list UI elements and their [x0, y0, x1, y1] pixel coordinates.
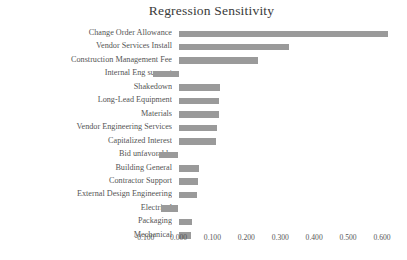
category-label: Packaging — [0, 215, 172, 227]
x-tick-label: 0.200 — [238, 232, 255, 244]
category-label: External Design Engineering — [0, 188, 172, 200]
bar — [179, 178, 199, 185]
chart-title: Regression Sensitivity — [0, 3, 407, 19]
category-label: Change Order Allowance — [0, 27, 172, 39]
bar — [179, 125, 218, 132]
x-tick-label: 0.600 — [373, 232, 390, 244]
chart-bar-row: Shakedown — [0, 82, 407, 94]
category-label: Shakedown — [0, 81, 172, 93]
chart-bar-row: Long-Lead Equipment — [0, 95, 407, 107]
x-tick-label: 0.400 — [306, 232, 323, 244]
chart-bar-row: Change Order Allowance — [0, 28, 407, 40]
x-axis: -0.1000.0000.1000.2000.3000.4000.5000.60… — [0, 232, 407, 246]
chart-bar-row: Materials — [0, 109, 407, 121]
x-tick-label: 0.500 — [340, 232, 357, 244]
chart-bar-row: External Design Engineering — [0, 189, 407, 201]
x-tick-label: -0.100 — [135, 232, 155, 244]
bar — [179, 219, 193, 226]
chart-bar-row: Vendor Services Install — [0, 41, 407, 53]
category-label: Materials — [0, 108, 172, 120]
category-label: Building General — [0, 162, 172, 174]
category-label: Long-Lead Equipment — [0, 94, 172, 106]
category-label: Capitalized Interest — [0, 135, 172, 147]
category-label: Bid unfavorable — [0, 148, 172, 160]
x-tick-label: 0.100 — [204, 232, 221, 244]
bar — [179, 44, 290, 51]
bar — [159, 152, 178, 159]
bar — [179, 84, 220, 91]
category-label: Vendor Engineering Services — [0, 121, 172, 133]
x-tick-label: 0.300 — [272, 232, 289, 244]
regression-sensitivity-chart: Regression Sensitivity Change Order Allo… — [0, 0, 407, 260]
chart-bar-row: Vendor Engineering Services — [0, 122, 407, 134]
chart-bar-row: Packaging — [0, 216, 407, 228]
bar — [179, 57, 258, 64]
bar — [179, 165, 199, 172]
bar — [179, 98, 220, 105]
chart-bar-row: Electrical — [0, 203, 407, 215]
x-tick-label: 0.000 — [170, 232, 187, 244]
chart-bar-row: Construction Management Fee — [0, 55, 407, 67]
plot-area: Change Order AllowanceVendor Services In… — [0, 26, 407, 230]
chart-bar-row: Contractor Support — [0, 176, 407, 188]
category-label: Contractor Support — [0, 175, 172, 187]
bar — [179, 138, 216, 145]
category-label: Electrical — [0, 202, 172, 214]
bar — [179, 192, 198, 199]
chart-bar-row: Bid unfavorable — [0, 149, 407, 161]
bar — [179, 31, 388, 38]
category-label: Construction Management Fee — [0, 54, 172, 66]
bar — [153, 71, 178, 78]
bar — [161, 205, 179, 212]
chart-bar-row: Capitalized Interest — [0, 136, 407, 148]
chart-bar-row: Building General — [0, 163, 407, 175]
category-label: Vendor Services Install — [0, 40, 172, 52]
category-label: Internal Eng support — [0, 67, 172, 79]
chart-bar-row: Internal Eng support — [0, 68, 407, 80]
bar — [179, 111, 219, 118]
